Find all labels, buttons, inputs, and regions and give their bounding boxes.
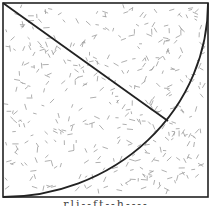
diagonal-line [3, 3, 168, 121]
quarter-circle-arc [3, 3, 208, 197]
square-outline [3, 3, 208, 197]
speckle-texture [4, 5, 205, 194]
square-arc-diagram [0, 0, 212, 206]
figure-caption-partial: rli--ft--h---- [0, 199, 212, 206]
